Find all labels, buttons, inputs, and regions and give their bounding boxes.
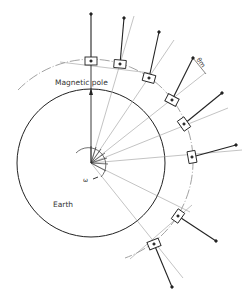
radial-lines xyxy=(60,16,242,278)
satellite-3 xyxy=(142,31,160,84)
earth-label: Earth xyxy=(53,200,73,209)
magnetic-pole-label: Magnetic pole xyxy=(55,78,108,87)
satellite-1 xyxy=(85,13,97,65)
satellite-8 xyxy=(147,238,173,288)
satellite-2 xyxy=(114,17,127,69)
satellite-4 xyxy=(165,57,194,107)
omega-label: ω xyxy=(83,176,88,183)
satellite-5 xyxy=(177,92,223,131)
satellite-6 xyxy=(187,144,237,164)
theta-m-label: θm xyxy=(195,56,207,69)
satellites xyxy=(85,13,237,288)
rotation-indicator xyxy=(76,146,108,179)
satellite-7 xyxy=(171,209,217,242)
satellite-orbit-diagram: ω Magnetic pole Earth θm xyxy=(0,0,252,302)
